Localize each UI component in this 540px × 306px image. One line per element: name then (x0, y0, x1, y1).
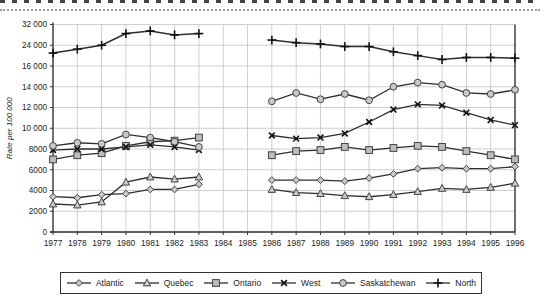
circle-marker (366, 97, 373, 104)
legend-label: Atlantic (96, 278, 124, 288)
circle-marker (390, 83, 397, 90)
diamond-marker (366, 175, 373, 182)
x-tick-label: 1981 (141, 238, 160, 248)
y-tick-label: 24 000 (22, 41, 47, 50)
x-tick-label: 1979 (92, 238, 111, 248)
diamond-marker (341, 178, 348, 185)
gridlines (53, 25, 515, 233)
chart-legend: AtlanticQuebecOntarioWestSaskatchewanNor… (60, 272, 482, 294)
x-tick-label: 1994 (457, 238, 476, 248)
circle-marker (487, 91, 494, 98)
x-tick-label: 1987 (287, 238, 306, 248)
circle-marker (463, 90, 470, 97)
circle-marker (439, 81, 446, 88)
square-marker (317, 147, 324, 154)
legend-label: West (301, 278, 320, 288)
legend-item-atlantic: Atlantic (66, 278, 124, 288)
circle-marker (512, 86, 519, 93)
x-tick-label: 1995 (481, 238, 500, 248)
top-dashed-rule (0, 0, 540, 3)
x-icon (271, 278, 297, 288)
rate-line-chart: 0200040006000800010 00012 00014 00016 00… (0, 14, 540, 260)
square-marker (50, 156, 57, 163)
diamond-marker (268, 177, 275, 184)
top-dotted-rule (0, 9, 540, 11)
circle-marker (195, 144, 202, 151)
diamond-marker (512, 163, 519, 170)
circle-marker (340, 280, 347, 287)
series-west (50, 101, 518, 152)
square-marker (293, 148, 300, 155)
diamond-marker (463, 165, 470, 172)
square-marker (390, 145, 397, 152)
y-tick-label: 14 000 (22, 83, 47, 92)
triangle-marker (195, 173, 202, 180)
triangle-icon (134, 278, 160, 288)
diamond-icon (66, 278, 92, 288)
y-tick-label: 6000 (29, 166, 48, 175)
square-marker (268, 152, 275, 159)
circle-marker (414, 79, 421, 86)
square-marker (213, 280, 220, 287)
circle-marker (341, 91, 348, 98)
diamond-marker (414, 165, 421, 172)
y-tick-label: 4000 (29, 186, 48, 195)
x-tick-label: 1985 (238, 238, 257, 248)
diamond-marker (123, 190, 130, 197)
x-tick-label: 1977 (44, 238, 63, 248)
diamond-marker (317, 177, 324, 184)
x-tick-label: 1986 (263, 238, 282, 248)
legend-label: Quebec (164, 278, 194, 288)
x-tick-label: 1989 (335, 238, 354, 248)
series-ontario (50, 134, 519, 163)
plus-icon (425, 278, 451, 288)
circle-marker (74, 139, 81, 146)
circle-marker (147, 134, 154, 141)
x-tick-label: 1982 (165, 238, 184, 248)
y-tick-label: 10 000 (22, 124, 47, 133)
circle-marker (317, 96, 324, 103)
circle-icon (330, 278, 356, 288)
y-tick-label: 16 000 (22, 62, 47, 71)
legend-label: Saskatchewan (360, 278, 415, 288)
circle-marker (171, 138, 178, 145)
x-tick-label: 1991 (384, 238, 403, 248)
y-tick-label: 2000 (29, 207, 48, 216)
series-saskatchewan (50, 79, 519, 150)
legend-item-north: North (425, 278, 476, 288)
diamond-marker (147, 186, 154, 193)
legend-label: Ontario (233, 278, 261, 288)
circle-marker (50, 142, 57, 149)
x-tick-label: 1978 (68, 238, 87, 248)
circle-marker (293, 90, 300, 97)
diamond-marker (195, 181, 202, 188)
circle-marker (98, 140, 105, 147)
y-axis-label: Rate per 100 000 (5, 97, 14, 159)
legend-item-saskatchewan: Saskatchewan (330, 278, 415, 288)
x-tick-label: 1993 (433, 238, 452, 248)
legend-item-west: West (271, 278, 320, 288)
diamond-marker (390, 171, 397, 178)
x-tick-label: 1988 (311, 238, 330, 248)
chart-svg: 0200040006000800010 00012 00014 00016 00… (0, 14, 540, 260)
x-tick-label: 1996 (506, 238, 525, 248)
square-marker (512, 156, 519, 163)
legend-label: North (455, 278, 476, 288)
y-tick-label: 0 (42, 228, 47, 237)
diamond-marker (76, 280, 83, 287)
circle-marker (123, 131, 130, 138)
diamond-marker (171, 186, 178, 193)
series-atlantic (50, 163, 519, 201)
square-marker (341, 144, 348, 151)
x-tick-label: 1992 (408, 238, 427, 248)
square-marker (195, 134, 202, 141)
diamond-marker (487, 165, 494, 172)
y-tick-label: 8000 (29, 145, 48, 154)
report-page: { "page": { "top_rule_style": "dotted" }… (0, 0, 540, 306)
x-tick-label: 1983 (190, 238, 209, 248)
triangle-marker (511, 179, 518, 186)
y-tick-label: 12 000 (22, 103, 47, 112)
axes (50, 23, 515, 236)
y-tick-label: 32 000 (22, 20, 47, 29)
square-marker (366, 147, 373, 154)
